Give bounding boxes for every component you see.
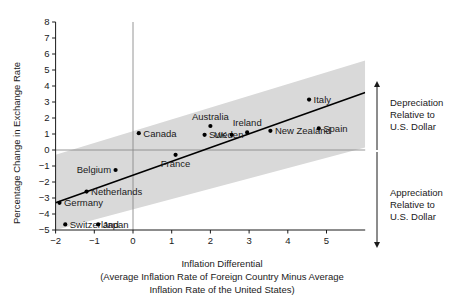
x-tick-label: 3 [246,235,251,246]
data-point-marker [57,201,61,205]
y-tick-label: −4 [39,208,50,219]
svg-text:Percentage Change in Exchange: Percentage Change in Exchange Rate [11,62,22,224]
data-point-label: France [161,158,191,169]
y-tick-label: −3 [39,192,50,203]
scatter-chart: −5−4−3−2−1012345678−2−1012345 CanadaAust… [0,0,454,307]
data-point-marker [113,168,117,172]
x-tick-label: −1 [89,235,100,246]
x-tick-label: 0 [130,235,135,246]
annotation-line: Depreciation [390,97,443,108]
svg-text:Inflation Differential: Inflation Differential [181,258,262,269]
svg-text:Inflation Rate of the United S: Inflation Rate of the United States) [149,284,294,295]
data-point: Canada [137,128,178,139]
data-point-marker [268,129,272,133]
x-tick-label: −2 [50,235,61,246]
data-point-marker [173,153,177,157]
data-point-label: Canada [143,128,177,139]
data-point-label: Japan [103,219,129,230]
data-point-marker [137,131,141,135]
data-point-label: Ireland [233,117,262,128]
annotation-line: Relative to [390,109,435,120]
data-point-marker [245,130,249,134]
data-point-marker [208,124,212,128]
data-point-label: Germany [64,197,103,208]
y-tick-label: 1 [44,128,49,139]
x-tick-label: 2 [208,235,213,246]
data-point-marker [317,126,321,130]
y-tick-label: −1 [39,160,50,171]
y-tick-label: 6 [44,48,49,59]
y-tick-label: −2 [39,176,50,187]
x-tick-label: 1 [169,235,174,246]
data-point: Germany [57,197,103,208]
y-tick-label: 7 [44,32,49,43]
data-point-label: Italy [314,94,332,105]
data-point-marker [63,222,67,226]
data-point-label: Netherlands [91,186,142,197]
y-tick-label: 2 [44,112,49,123]
x-tick-label: 4 [285,235,290,246]
annotation-line: U.S. Dollar [390,121,436,132]
data-point: New Zealand [268,125,331,136]
data-point-marker [307,98,311,102]
y-tick-label: 0 [44,144,49,155]
y-tick-label: 8 [44,16,49,27]
y-axis-title: Percentage Change in Exchange Rate [11,62,22,224]
y-tick-label: 4 [44,80,49,91]
data-point: Netherlands [84,186,142,197]
data-point-label: Spain [323,123,347,134]
annotation-line: U.S. Dollar [390,211,436,222]
annotation-line: Relative to [390,199,435,210]
data-point-label: Australia [192,111,230,122]
data-point-marker [84,190,88,194]
svg-text:(Average Inflation Rate of For: (Average Inflation Rate of Foreign Count… [100,271,344,282]
data-point-marker [96,222,100,226]
annotation-line: Appreciation [390,187,443,198]
x-tick-label: 5 [324,235,329,246]
data-point-marker [202,133,206,137]
data-point-marker [230,133,234,137]
y-tick-label: 5 [44,64,49,75]
y-tick-label: −5 [39,224,50,235]
data-point-label: Belgium [77,164,111,175]
chart-root: −5−4−3−2−1012345678−2−1012345 CanadaAust… [0,0,454,307]
data-point-label: UK [214,129,228,140]
y-tick-label: 3 [44,96,49,107]
